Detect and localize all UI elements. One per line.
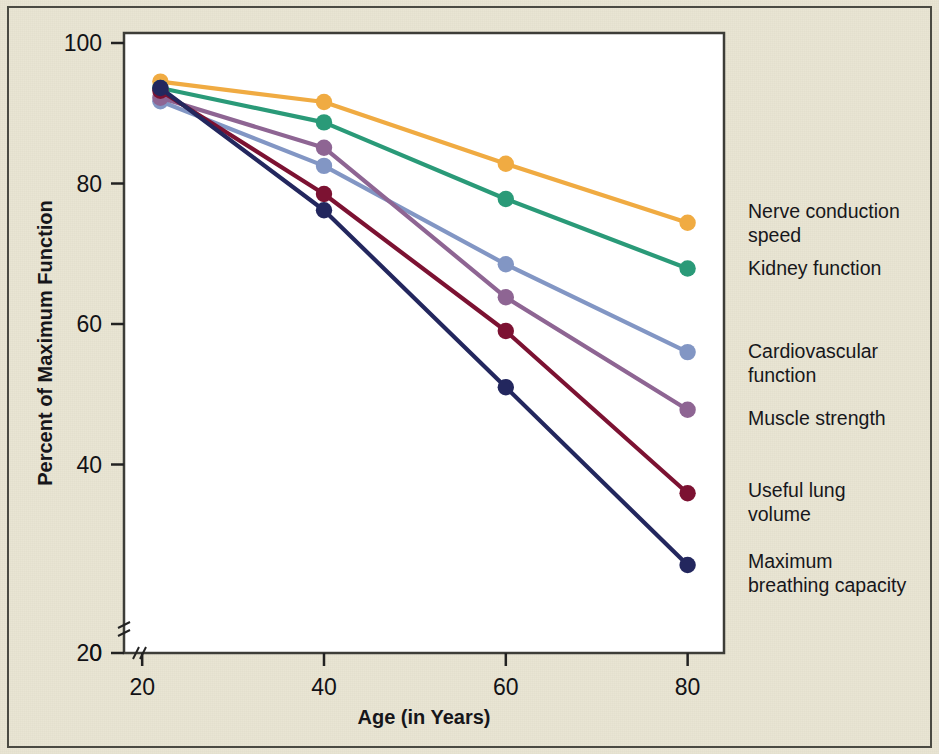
legend-entry-line: Kidney function (748, 257, 881, 279)
data-point-marker (498, 379, 514, 395)
legend-entry-line: Cardiovascular (748, 340, 879, 362)
legend-entry[interactable]: Cardiovascularfunction (748, 340, 879, 386)
y-axis-tick-label: 40 (76, 452, 102, 478)
legend-entry[interactable]: Kidney function (748, 257, 881, 279)
x-axis-ticks (142, 653, 687, 666)
legend-entry-line: Maximum (748, 550, 833, 572)
data-point-marker (498, 256, 514, 272)
y-axis-title: Percent of Maximum Function (34, 200, 56, 486)
legend-entry[interactable]: Maximumbreathing capacity (748, 550, 907, 596)
y-axis-tick-label: 100 (64, 30, 102, 56)
data-point-marker (316, 94, 332, 110)
legend-entry[interactable]: Nerve conductionspeed (748, 200, 900, 246)
legend-entry-line: volume (748, 503, 811, 525)
legend-entry-line: Nerve conduction (748, 200, 900, 222)
x-axis-tick-label: 40 (311, 674, 337, 700)
x-axis-tick-label: 60 (493, 674, 519, 700)
data-point-marker (679, 557, 695, 573)
data-point-marker (498, 156, 514, 172)
data-point-marker (679, 260, 695, 276)
x-axis-title: Age (in Years) (357, 706, 490, 728)
data-point-marker (679, 215, 695, 231)
legend-entry-line: speed (748, 224, 801, 246)
data-point-marker (316, 186, 332, 202)
y-axis-tick-label: 80 (76, 171, 102, 197)
legend-entry-line: Muscle strength (748, 407, 886, 429)
y-axis-tick-label: 20 (76, 640, 102, 666)
data-point-marker (679, 344, 695, 360)
data-point-marker (679, 402, 695, 418)
data-point-marker (679, 485, 695, 501)
data-point-marker (316, 114, 332, 130)
line-chart: 020406080100 20406080 Nerve conductionsp… (0, 0, 939, 754)
legend-entry-line: breathing capacity (748, 574, 907, 596)
x-axis-tick-labels: 20406080 (129, 674, 700, 700)
data-point-marker (498, 191, 514, 207)
data-point-marker (498, 323, 514, 339)
data-point-marker (498, 289, 514, 305)
data-point-marker (316, 140, 332, 156)
y-axis-tick-label: 60 (76, 311, 102, 337)
data-point-marker (316, 158, 332, 174)
legend-labels: Nerve conductionspeedKidney functionCard… (748, 200, 907, 596)
legend-entry-line: Useful lung (748, 479, 846, 501)
x-axis-tick-label: 80 (675, 674, 701, 700)
y-axis-tick-labels: 020406080100 (64, 30, 102, 666)
y-axis-ticks (111, 43, 124, 653)
figure-container: 020406080100 20406080 Nerve conductionsp… (0, 0, 939, 754)
legend-entry-line: function (748, 364, 816, 386)
data-point-marker (152, 80, 168, 96)
legend-entry[interactable]: Muscle strength (748, 407, 886, 429)
x-axis-tick-label: 20 (129, 674, 155, 700)
legend-entry[interactable]: Useful lungvolume (748, 479, 846, 525)
data-point-marker (316, 202, 332, 218)
